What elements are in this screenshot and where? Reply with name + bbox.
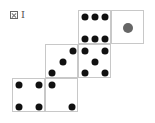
pip-dot-icon (49, 82, 56, 89)
pip-dot-icon (70, 48, 77, 55)
pip-dot-icon (82, 48, 89, 55)
figure-label: I (21, 9, 25, 20)
pip-dot-icon (82, 36, 89, 43)
die-face-six (78, 10, 111, 44)
pip-dot-icon (69, 104, 76, 111)
pip-dot-icon (92, 36, 99, 43)
pip-dot-icon (16, 82, 23, 89)
die-face-three (45, 44, 78, 78)
pip-dot-icon (36, 82, 43, 89)
die-face-two (45, 78, 78, 112)
die-face-one (111, 10, 144, 44)
pip-dot-icon (82, 70, 89, 77)
pip-dot-icon (123, 23, 133, 33)
pip-dot-icon (102, 48, 109, 55)
pip-dot-icon (16, 104, 23, 111)
pip-dot-icon (49, 70, 56, 77)
pip-dot-icon (92, 14, 99, 21)
pip-dot-icon (102, 14, 109, 21)
figure-caption: I (10, 9, 25, 20)
pip-dot-icon (92, 59, 99, 66)
die-face-four (12, 78, 45, 112)
pip-dot-icon (36, 104, 43, 111)
pip-dot-icon (60, 59, 67, 66)
pip-dot-icon (82, 14, 89, 21)
die-face-five (78, 44, 111, 78)
pip-dot-icon (102, 36, 109, 43)
figure-mark-icon (10, 11, 18, 19)
pip-dot-icon (102, 70, 109, 77)
